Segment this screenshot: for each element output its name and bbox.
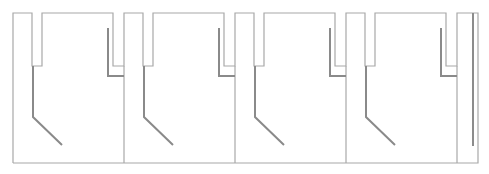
flap-line bbox=[33, 66, 62, 145]
flap-line bbox=[144, 66, 173, 145]
step-line bbox=[219, 28, 235, 76]
module-diagram bbox=[0, 0, 489, 174]
step-line bbox=[330, 28, 346, 76]
outline-group bbox=[13, 13, 478, 163]
step-line bbox=[441, 28, 457, 76]
step-line bbox=[108, 28, 124, 76]
module-outline bbox=[13, 13, 478, 163]
flap-line bbox=[366, 66, 395, 145]
flap-line bbox=[255, 66, 284, 145]
inner-lines-group bbox=[33, 13, 473, 146]
